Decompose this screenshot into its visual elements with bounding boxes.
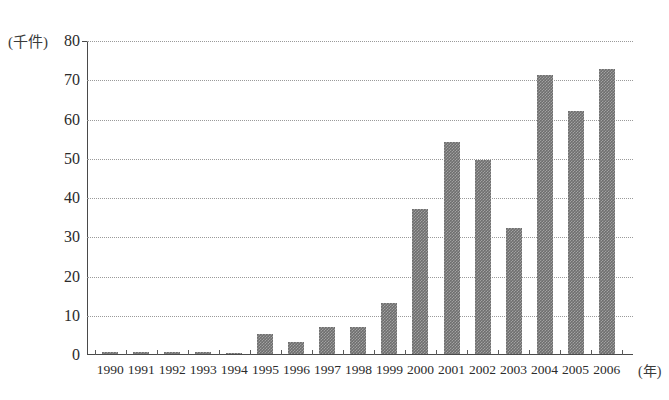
x-axis-tick	[529, 350, 530, 355]
bar-chart: (千件) 01020304050607080 19901991199219931…	[0, 0, 669, 400]
x-axis-tick-label-1995: 1995	[252, 362, 279, 378]
bar-1992	[164, 352, 180, 354]
x-axis-tick-label-2004: 2004	[531, 362, 558, 378]
bar-1997	[319, 327, 335, 354]
bar-2006	[599, 69, 615, 354]
y-axis-tick-label: 60	[64, 111, 80, 129]
x-axis-tick	[436, 350, 437, 355]
x-axis-tick	[467, 350, 468, 355]
x-axis-tick-label-2000: 2000	[407, 362, 434, 378]
bar-2005	[568, 111, 584, 354]
y-axis-tick-label: 40	[64, 189, 80, 207]
plot-area: 01020304050607080	[87, 41, 633, 355]
bar-2000	[412, 209, 428, 354]
x-axis-tick	[312, 350, 313, 355]
x-axis-tick	[281, 350, 282, 355]
x-axis-tick-label-1994: 1994	[221, 362, 248, 378]
x-axis-line	[87, 354, 633, 355]
x-axis-tick-label-1999: 1999	[376, 362, 403, 378]
y-axis-unit-label: (千件)	[8, 30, 48, 51]
x-axis-tick-label-1996: 1996	[283, 362, 310, 378]
x-axis-tick	[219, 350, 220, 355]
x-axis-tick	[405, 350, 406, 355]
x-axis-tick	[498, 350, 499, 355]
y-axis-tick-label: 20	[64, 268, 80, 286]
y-axis-tick-label: 70	[64, 71, 80, 89]
x-axis-tick-label-2002: 2002	[469, 362, 496, 378]
x-axis-tick	[591, 350, 592, 355]
x-axis-tick-label-2003: 2003	[500, 362, 527, 378]
bar-1991	[133, 352, 149, 354]
x-axis-tick	[622, 350, 623, 355]
x-axis-tick	[157, 350, 158, 355]
bar-1999	[381, 303, 397, 354]
y-axis-tick-label: 50	[64, 150, 80, 168]
x-axis-tick-label-1997: 1997	[314, 362, 341, 378]
x-axis-tick-label-1991: 1991	[128, 362, 155, 378]
bar-1995	[257, 334, 273, 354]
y-axis-tick-label: 30	[64, 228, 80, 246]
bar-2003	[506, 228, 522, 354]
x-axis-right-cap	[623, 354, 633, 355]
bar-2004	[537, 75, 553, 354]
x-axis-tick-label-1990: 1990	[97, 362, 124, 378]
x-axis-tick-label-1993: 1993	[190, 362, 217, 378]
x-axis-tick	[374, 350, 375, 355]
y-axis-tick-label: 0	[72, 346, 80, 364]
bar-1998	[350, 327, 366, 354]
x-axis-tick	[95, 350, 96, 355]
x-axis-tick-label-1998: 1998	[345, 362, 372, 378]
y-axis-tick-label: 10	[64, 307, 80, 325]
y-axis-tick-label: 80	[64, 32, 80, 50]
bar-1993	[195, 352, 211, 354]
bar-2001	[444, 142, 460, 354]
x-axis-tick	[126, 350, 127, 355]
x-axis-tick-label-2006: 2006	[593, 362, 620, 378]
x-axis-tick-label-2005: 2005	[562, 362, 589, 378]
x-axis-tick-label-2001: 2001	[438, 362, 465, 378]
x-axis-tick	[343, 350, 344, 355]
bar-1994	[226, 353, 242, 354]
bar-1996	[288, 342, 304, 354]
bar-2002	[475, 160, 491, 354]
x-axis-unit-label: (年)	[638, 360, 661, 380]
x-axis-tick	[250, 350, 251, 355]
x-axis-tick	[188, 350, 189, 355]
gridline	[87, 41, 633, 42]
bar-1990	[102, 352, 118, 354]
x-axis-tick-label-1992: 1992	[159, 362, 186, 378]
x-axis-tick	[560, 350, 561, 355]
